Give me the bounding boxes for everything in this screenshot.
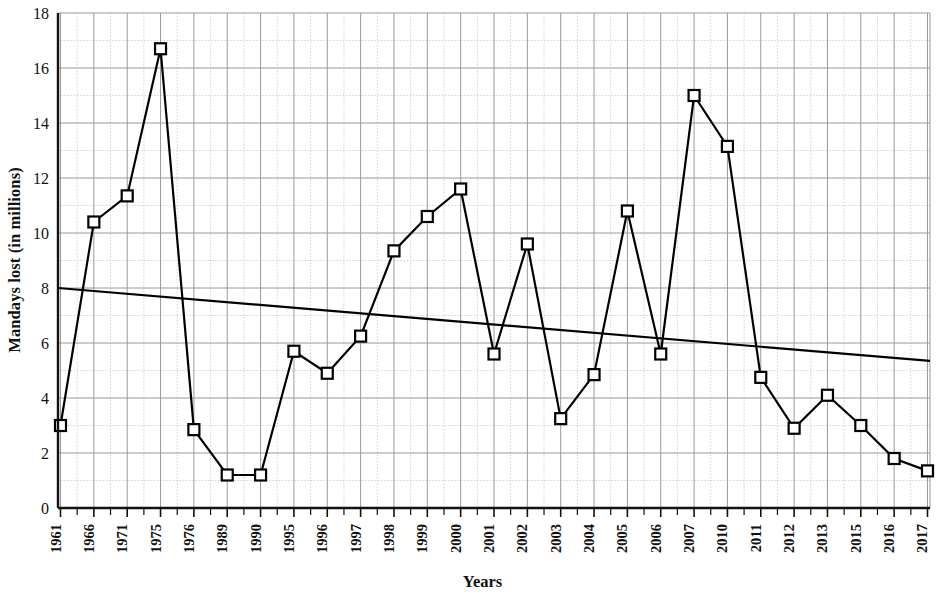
x-tick-label: 2005 bbox=[614, 524, 630, 553]
x-tick-label: 2015 bbox=[848, 524, 864, 553]
y-axis-tick-labels: 024681012141618 bbox=[33, 5, 49, 517]
x-axis-ticks bbox=[61, 508, 928, 517]
x-tick-label: 1971 bbox=[114, 524, 130, 553]
y-tick-label: 6 bbox=[41, 335, 49, 352]
y-axis-title-text: Mandays lost (in millions) bbox=[5, 167, 25, 353]
x-tick-label: 2002 bbox=[514, 524, 530, 553]
x-tick-label: 2000 bbox=[448, 524, 464, 553]
y-tick-label: 0 bbox=[41, 500, 49, 517]
x-tick-label: 2011 bbox=[748, 524, 764, 552]
x-tick-label: 1996 bbox=[314, 524, 330, 553]
x-tick-label: 2012 bbox=[781, 524, 797, 553]
x-tick-label: 1997 bbox=[348, 524, 364, 553]
x-tick-label: 2016 bbox=[881, 524, 897, 553]
x-axis-title-text: Years bbox=[443, 572, 502, 591]
y-axis-title: Mandays lost (in millions) bbox=[0, 0, 30, 520]
x-tick-label: 1999 bbox=[414, 524, 430, 553]
y-tick-label: 8 bbox=[41, 280, 49, 297]
x-tick-label: 2001 bbox=[481, 524, 497, 553]
x-tick-label: 1989 bbox=[214, 524, 230, 553]
y-tick-label: 16 bbox=[33, 60, 49, 77]
y-tick-label: 4 bbox=[41, 390, 49, 407]
x-tick-label: 1990 bbox=[248, 524, 264, 553]
x-tick-label: 2013 bbox=[814, 524, 830, 553]
y-tick-label: 10 bbox=[33, 225, 49, 242]
y-tick-label: 2 bbox=[41, 445, 49, 462]
x-tick-label: 2010 bbox=[714, 524, 730, 553]
x-tick-label: 2017 bbox=[914, 524, 930, 553]
y-tick-label: 14 bbox=[33, 115, 49, 132]
x-tick-label: 1966 bbox=[81, 524, 97, 553]
x-tick-label: 2004 bbox=[581, 524, 597, 553]
x-tick-label: 1995 bbox=[281, 524, 297, 553]
y-tick-label: 18 bbox=[33, 5, 49, 22]
x-tick-label: 1998 bbox=[381, 524, 397, 553]
x-axis-tick-labels: 1961196619711975197619891990199519961997… bbox=[48, 524, 931, 553]
line-chart: Mandays lost (in millions) 0246810121416… bbox=[0, 0, 945, 607]
chart-plot-svg: 024681012141618 196119661971197519761989… bbox=[0, 0, 945, 607]
x-tick-label: 1961 bbox=[48, 524, 64, 553]
x-tick-label: 2007 bbox=[681, 524, 697, 553]
x-tick-label: 1975 bbox=[148, 524, 164, 553]
x-tick-label: 2003 bbox=[548, 524, 564, 553]
x-tick-label: 2006 bbox=[648, 524, 664, 553]
y-tick-label: 12 bbox=[33, 170, 49, 187]
x-axis-title: Years bbox=[0, 572, 945, 592]
x-tick-label: 1976 bbox=[181, 524, 197, 553]
